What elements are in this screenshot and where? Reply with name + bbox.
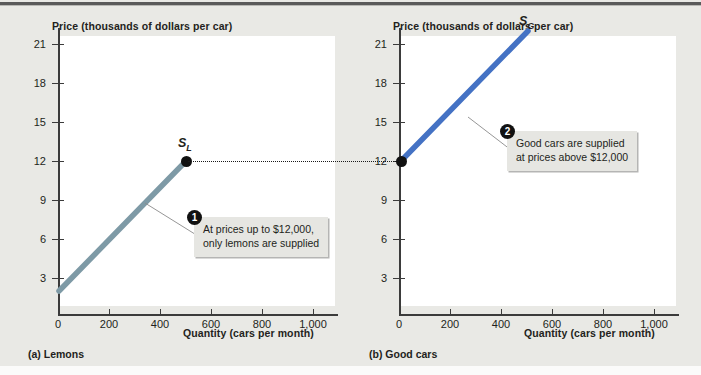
callout-line1-b: Good cars are supplied bbox=[516, 136, 628, 150]
y-tick-label-9-b: 9 bbox=[357, 194, 387, 206]
supply-startpoint-dot-b bbox=[396, 156, 407, 167]
y-tick-18-b bbox=[393, 83, 405, 84]
x-tick-label-200-b: 200 bbox=[427, 318, 473, 330]
y-tick-12-a bbox=[52, 161, 64, 162]
y-tick-label-15-a: 15 bbox=[16, 116, 46, 128]
y-tick-label-9-a: 9 bbox=[16, 194, 46, 206]
y-tick-6-a bbox=[52, 239, 64, 240]
panel-caption-b: (b) Good cars bbox=[369, 348, 437, 360]
y-tick-15-b bbox=[393, 122, 405, 123]
x-axis-line-a bbox=[58, 314, 338, 316]
y-tick-21-a bbox=[52, 44, 64, 45]
y-tick-18-a bbox=[52, 83, 64, 84]
x-tick-600-a bbox=[211, 309, 212, 316]
x-axis-line-b bbox=[399, 314, 679, 316]
y-tick-label-12-a: 12 bbox=[16, 155, 46, 167]
callout-line2-b: at prices above $12,000 bbox=[516, 150, 628, 164]
x-tick-400-a bbox=[160, 309, 161, 316]
x-tick-600-b bbox=[552, 309, 553, 316]
x-tick-800-b bbox=[603, 309, 604, 316]
y-tick-label-21-b: 21 bbox=[357, 38, 387, 50]
x-tick-label-400-b: 400 bbox=[478, 318, 524, 330]
x-tick-200-b bbox=[450, 309, 451, 316]
y-tick-9-a bbox=[52, 200, 64, 201]
x-tick-800-a bbox=[262, 309, 263, 316]
callout-box-a: At prices up to $12,000, only lemons are… bbox=[194, 217, 328, 257]
y-tick-label-18-a: 18 bbox=[16, 77, 46, 89]
economics-figure: Price (thousands of dollars per car) 3 6… bbox=[0, 0, 701, 375]
y-tick-label-6-a: 6 bbox=[16, 233, 46, 245]
y-tick-15-a bbox=[52, 122, 64, 123]
y-tick-label-21-a: 21 bbox=[16, 38, 46, 50]
panel-caption-a: (a) Lemons bbox=[28, 348, 84, 360]
y-tick-21-b bbox=[393, 44, 405, 45]
y-tick-label-3-b: 3 bbox=[357, 272, 387, 284]
plot-area-b bbox=[400, 36, 676, 306]
panel-good-cars: Price (thousands of dollars per car) 3 6… bbox=[341, 0, 691, 375]
callout-line1-a: At prices up to $12,000, bbox=[203, 222, 319, 236]
x-axis-title-a: Quantity (cars per month) bbox=[183, 327, 314, 339]
y-tick-6-b bbox=[393, 239, 405, 240]
x-tick-label-400-a: 400 bbox=[137, 318, 183, 330]
plot-area-a bbox=[59, 36, 335, 306]
y-axis-line-a bbox=[58, 28, 60, 315]
price-12-reference-line bbox=[188, 161, 396, 162]
y-axis-title-a: Price (thousands of dollars per car) bbox=[52, 20, 232, 32]
x-tick-200-a bbox=[109, 309, 110, 316]
y-tick-label-6-b: 6 bbox=[357, 233, 387, 245]
callout-badge-1: 1 bbox=[187, 210, 202, 225]
x-tick-label-0-b: 0 bbox=[376, 318, 422, 330]
callout-box-b: Good cars are supplied at prices above $… bbox=[507, 131, 637, 171]
callout-line2-a: only lemons are supplied bbox=[203, 236, 319, 250]
bottom-fade-strip bbox=[0, 366, 701, 375]
y-tick-3-b bbox=[393, 278, 405, 279]
callout-badge-2: 2 bbox=[500, 124, 515, 139]
x-axis-title-b: Quantity (cars per month) bbox=[524, 327, 655, 339]
panel-lemons: Price (thousands of dollars per car) 3 6… bbox=[0, 0, 350, 375]
y-tick-label-18-b: 18 bbox=[357, 77, 387, 89]
y-axis-title-b: Price (thousands of dollars per car) bbox=[393, 20, 573, 32]
x-tick-label-200-a: 200 bbox=[86, 318, 132, 330]
x-tick-1000-a bbox=[313, 309, 314, 316]
x-tick-400-b bbox=[501, 309, 502, 316]
y-tick-label-3-a: 3 bbox=[16, 272, 46, 284]
y-tick-3-a bbox=[52, 278, 64, 279]
y-tick-9-b bbox=[393, 200, 405, 201]
y-axis-line-b bbox=[399, 28, 401, 315]
curve-label-sg: SG bbox=[519, 14, 534, 31]
x-tick-label-0-a: 0 bbox=[35, 318, 81, 330]
y-tick-label-15-b: 15 bbox=[357, 116, 387, 128]
x-tick-1000-b bbox=[654, 309, 655, 316]
curve-label-sl: SL bbox=[178, 136, 192, 153]
